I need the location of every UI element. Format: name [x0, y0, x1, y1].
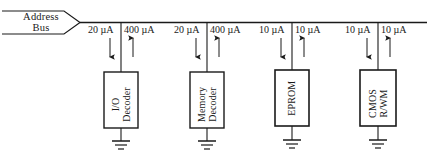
current-label-memory-decoder-left: 20 µA	[174, 25, 199, 36]
current-label-memory-decoder-right: 400 µA	[210, 25, 240, 36]
bus-label-line1: Address	[12, 11, 70, 22]
block-label-memory-decoder-line1: Memory	[196, 87, 207, 122]
block-label-eprom-line1: EPROM	[286, 81, 297, 116]
block-label-io-decoder-line2: Decoder	[120, 87, 131, 122]
block-label-io-decoder-line1: I/O	[110, 98, 121, 112]
current-label-io-decoder-right: 400 µA	[124, 25, 154, 36]
block-label-cmos-rwm-line1: CMOS	[367, 89, 378, 118]
block-label-io-decoder: I/O Decoder	[111, 63, 132, 147]
block-label-memory-decoder: Memory Decoder	[197, 63, 218, 147]
current-label-eprom-right: 10 µA	[295, 25, 320, 36]
block-label-cmos-rwm: CMOS R/WM	[368, 62, 389, 146]
block-label-memory-decoder-line2: Decoder	[206, 87, 217, 122]
block-label-cmos-rwm-line2: R/WM	[377, 89, 388, 117]
current-label-io-decoder-left: 20 µA	[88, 25, 113, 36]
block-label-eprom: EPROM	[287, 56, 298, 140]
bus-label-line2: Bus	[12, 22, 70, 33]
bus-label: Address Bus	[12, 11, 70, 33]
ground-symbol-eprom	[283, 140, 301, 148]
current-label-cmos-rwm-left: 10 µA	[345, 25, 370, 36]
current-label-eprom-left: 10 µA	[259, 25, 284, 36]
current-label-cmos-rwm-right: 10 µA	[381, 25, 406, 36]
address-bus-loading-diagram: Address Bus 20 µA 400 µA 20 µA 400 µA 10…	[0, 0, 429, 160]
